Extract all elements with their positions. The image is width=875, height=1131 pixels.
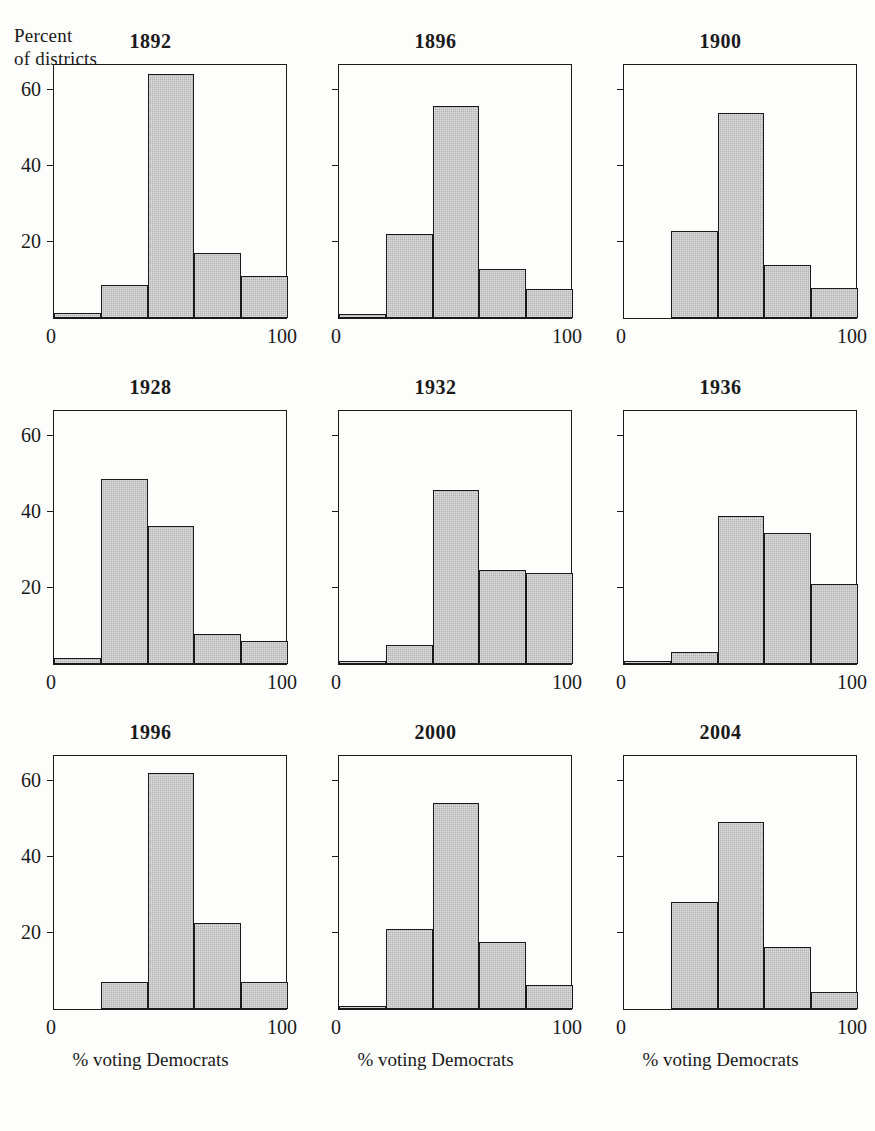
y-tick-20: 20 [47,932,54,933]
y-tick-20: 20 [617,587,624,588]
panel-title: 1932 [293,376,578,399]
bar-series [339,65,571,318]
plot-frame: 204060 [623,410,857,665]
panel-title: 1896 [293,30,578,53]
histogram-bar [194,923,241,1009]
histogram-bar [241,641,288,664]
histogram-bar [386,645,433,664]
plot-frame: 204060 [623,64,857,319]
y-tick-40: 40 [617,856,624,857]
histogram-panel-1928: 19282040600100 [8,368,293,713]
x-axis-title: % voting Democrats [293,1049,578,1071]
y-tick-label: 40 [21,844,41,868]
x-tick-label-min: 0 [616,1016,626,1038]
y-tick-60: 60 [47,435,54,436]
histogram-bar [811,288,858,318]
histogram-bar [526,573,573,664]
histogram-panel-1936: 19362040600100 [578,368,863,713]
bar-series [339,411,571,664]
histogram-bar [811,584,858,664]
plot-frame: 204060 [338,410,572,665]
y-tick-40: 40 [617,511,624,512]
histogram-bar [54,658,101,664]
y-tick-40: 40 [47,856,54,857]
y-tick-20: 20 [332,932,339,933]
x-tick-label-max: 100 [837,325,867,347]
y-tick-label: 40 [21,499,41,523]
y-tick-40: 40 [47,165,54,166]
x-tick-label-min: 0 [46,1016,56,1038]
x-tick-label-min: 0 [46,325,56,347]
histogram-bar [764,533,811,664]
histogram-bar [764,265,811,318]
y-tick-label: 60 [21,423,41,447]
histogram-bar [718,113,765,318]
y-tick-40: 40 [332,165,339,166]
histogram-bar [194,634,241,664]
histogram-panel-2000: 20002040600100% voting Democrats [293,713,578,1058]
histogram-bar [339,661,386,664]
y-tick-label: 60 [21,768,41,792]
bar-series [339,756,571,1009]
histogram-bar [101,982,148,1009]
panel-title: 1900 [578,30,863,53]
x-tick-label-min: 0 [616,325,626,347]
histogram-bar [718,516,765,664]
panel-title: 2000 [293,721,578,744]
histogram-bar [526,289,573,318]
histogram-bar [241,276,288,318]
y-tick-20: 20 [47,587,54,588]
y-tick-40: 40 [332,856,339,857]
histogram-panel-2004: 20042040600100% voting Democrats [578,713,863,1058]
plot-frame: 204060 [338,64,572,319]
histogram-bar [433,490,480,664]
histogram-bar [339,314,386,318]
histogram-bar [671,231,718,318]
x-tick-label-min: 0 [331,1016,341,1038]
x-tick-label-min: 0 [46,671,56,693]
y-tick-label: 20 [21,575,41,599]
bar-series [624,756,856,1009]
histogram-bar [148,526,195,664]
bar-series [54,65,286,318]
y-tick-20: 20 [47,241,54,242]
y-tick-label: 40 [21,153,41,177]
x-tick-label-max: 100 [837,1016,867,1038]
plot-frame: 204060 [53,755,287,1010]
histogram-bar [433,106,480,318]
histogram-bar [479,570,526,664]
y-tick-20: 20 [617,932,624,933]
y-tick-60: 60 [47,780,54,781]
histogram-bar [526,985,573,1009]
x-tick-label-max: 100 [837,671,867,693]
y-tick-label: 60 [21,77,41,101]
plot-frame: 204060 [338,755,572,1010]
bar-series [54,756,286,1009]
plot-frame: 204060 [53,64,287,319]
histogram-bar [101,479,148,664]
y-tick-40: 40 [47,511,54,512]
histogram-bar [54,313,101,318]
histogram-panel-grid: Percent of districts 1892204060010018962… [0,0,875,1131]
histogram-bar [194,253,241,318]
x-tick-label-min: 0 [331,325,341,347]
panel-title: 2004 [578,721,863,744]
bar-series [624,65,856,318]
histogram-bar [386,234,433,318]
histogram-bar [148,773,195,1009]
histogram-bar [764,947,811,1009]
panel-title: 1936 [578,376,863,399]
histogram-bar [148,74,195,318]
y-tick-60: 60 [47,89,54,90]
plot-frame: 204060 [53,410,287,665]
histogram-bar [339,1006,386,1009]
histogram-panel-1996: 19962040600100% voting Democrats [8,713,293,1058]
histogram-bar [479,269,526,318]
panel-title: 1996 [8,721,293,744]
y-tick-20: 20 [332,587,339,588]
y-tick-20: 20 [332,241,339,242]
histogram-bar [718,822,765,1009]
y-tick-60: 60 [617,435,624,436]
histogram-panel-1892: 18922040600100 [8,22,293,367]
panel-title: 1892 [8,30,293,53]
